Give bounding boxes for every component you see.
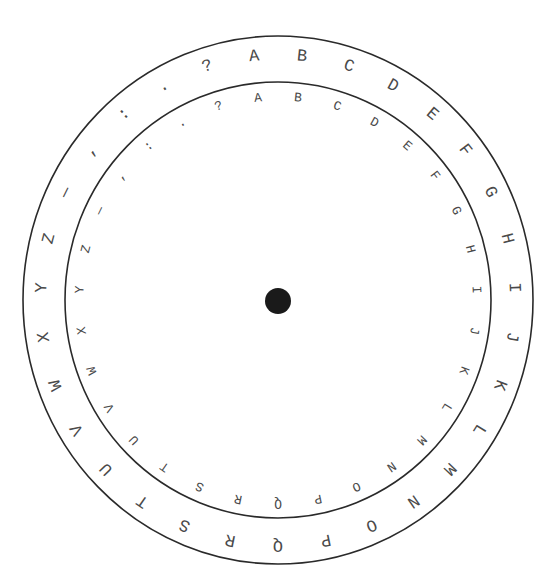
inner-char: O <box>349 478 362 495</box>
outer-char: . <box>154 75 172 97</box>
outer-char: W <box>45 376 67 393</box>
inner-char: — <box>91 204 108 219</box>
inner-char: N <box>384 458 399 475</box>
inner-char: M <box>414 432 430 448</box>
outer-char: — <box>54 183 76 202</box>
center-pivot[interactable] <box>265 288 291 314</box>
inner-char: G <box>448 204 465 218</box>
inner-char: W <box>84 364 101 377</box>
outer-char: S <box>176 514 193 535</box>
outer-char: G <box>480 183 502 201</box>
outer-char: A <box>248 46 261 66</box>
outer-char: I <box>505 282 524 293</box>
outer-char: Z <box>38 231 59 246</box>
outer-char: B <box>296 46 308 66</box>
outer-char: J <box>502 331 522 344</box>
outer-char: P <box>319 530 333 551</box>
inner-char: : <box>141 138 157 154</box>
outer-char: X <box>34 331 54 344</box>
inner-char: E <box>399 138 415 155</box>
inner-char: D <box>367 114 381 131</box>
inner-char: B <box>293 90 302 106</box>
outer-char: Q <box>273 535 283 554</box>
outer-char: Y <box>32 282 51 293</box>
inner-char: C <box>331 98 343 115</box>
outer-char: , <box>80 140 101 160</box>
inner-char: Q <box>274 495 282 510</box>
cipher-wheel: ABCDEFGHIJKLMNOPQRSTUVWXYZ—,:.? ABCDEFGH… <box>0 0 555 581</box>
outer-char: H <box>497 231 518 246</box>
inner-char: S <box>193 478 206 495</box>
inner-char: T <box>157 458 172 475</box>
outer-char: N <box>404 490 423 511</box>
inner-char: H <box>462 243 478 254</box>
outer-char: L <box>468 420 490 439</box>
inner-char: J <box>466 326 482 336</box>
outer-char: E <box>422 104 442 125</box>
outer-char: F <box>455 140 476 160</box>
outer-char: U <box>96 459 117 479</box>
inner-char: F <box>427 168 444 183</box>
outer-char: : <box>114 104 134 125</box>
inner-char: ? <box>213 98 225 115</box>
outer-char: V <box>66 420 88 439</box>
outer-char: M <box>439 459 460 479</box>
outer-char: C <box>341 56 356 77</box>
outer-char: D <box>384 75 402 97</box>
inner-char: I <box>468 285 483 294</box>
outer-char: K <box>489 377 511 394</box>
inner-char: L <box>438 400 455 415</box>
inner-char: A <box>253 90 262 106</box>
inner-char: V <box>101 400 118 415</box>
outer-char: ? <box>199 56 214 77</box>
inner-char: Y <box>72 285 87 294</box>
inner-char: K <box>456 364 473 377</box>
outer-char: T <box>133 490 152 511</box>
inner-char: R <box>233 491 244 507</box>
outer-char: O <box>363 514 380 535</box>
inner-char: P <box>312 491 323 507</box>
outer-char: R <box>223 530 237 551</box>
inner-char: X <box>74 326 90 336</box>
inner-char: , <box>113 168 130 183</box>
inner-char: Z <box>78 243 95 255</box>
inner-char: U <box>126 432 142 448</box>
inner-char: . <box>175 114 189 131</box>
